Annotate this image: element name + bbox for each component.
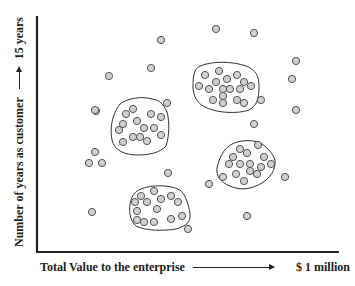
data-point	[167, 215, 174, 222]
data-point	[122, 110, 129, 117]
data-point	[98, 159, 105, 166]
data-point	[215, 67, 222, 74]
data-point	[205, 180, 212, 187]
data-point	[229, 153, 236, 160]
data-point	[105, 72, 112, 79]
data-point	[184, 225, 191, 232]
data-point	[147, 110, 154, 117]
axes	[36, 16, 339, 252]
y-arrow-icon	[19, 67, 20, 89]
data-point	[143, 198, 150, 205]
data-point	[232, 170, 239, 177]
data-point	[219, 85, 226, 92]
data-point	[157, 36, 164, 43]
data-point	[157, 113, 164, 120]
x-axis-max: $ 1 million	[296, 260, 350, 275]
data-point	[195, 82, 202, 89]
data-point	[250, 29, 257, 36]
data-point	[219, 173, 226, 180]
data-point	[219, 92, 226, 99]
data-point	[88, 208, 95, 215]
data-point	[223, 75, 230, 82]
data-point	[133, 207, 140, 214]
data-point	[267, 160, 274, 167]
y-axis-max: 15 years	[12, 17, 27, 59]
data-point	[250, 120, 257, 127]
data-point	[201, 71, 208, 78]
data-point	[157, 131, 164, 138]
data-point	[246, 167, 253, 174]
data-point	[167, 192, 174, 199]
data-point	[131, 198, 138, 205]
data-point	[247, 82, 254, 89]
data-point	[240, 177, 247, 184]
data-point	[163, 99, 170, 106]
data-point	[243, 212, 250, 219]
data-point	[136, 133, 143, 140]
data-point	[233, 96, 240, 103]
data-point	[147, 64, 154, 71]
data-point	[129, 133, 136, 140]
data-point	[140, 218, 147, 225]
data-point	[246, 160, 253, 167]
data-point	[178, 212, 185, 219]
data-point	[240, 78, 247, 85]
data-point	[140, 124, 147, 131]
data-point	[153, 205, 160, 212]
data-point	[115, 126, 122, 133]
data-point	[85, 159, 92, 166]
data-point	[143, 137, 150, 144]
data-point	[236, 85, 243, 92]
data-point	[137, 192, 144, 199]
data-point	[260, 153, 267, 160]
data-point	[292, 106, 299, 113]
data-point	[212, 25, 219, 32]
data-point	[233, 71, 240, 78]
data-point	[212, 78, 219, 85]
data-point	[209, 96, 216, 103]
data-point	[288, 75, 295, 82]
data-point	[129, 105, 136, 112]
scatter-diagram	[0, 0, 355, 286]
data-point	[257, 96, 264, 103]
y-axis-title: Number of years as customer	[12, 97, 27, 247]
data-point	[150, 218, 157, 225]
data-point	[91, 148, 98, 155]
data-point	[133, 216, 140, 223]
data-point	[174, 198, 181, 205]
data-point	[253, 170, 260, 177]
data-point	[164, 169, 171, 176]
data-point	[133, 117, 140, 124]
data-point	[292, 57, 299, 64]
data-point	[254, 141, 261, 148]
data-point	[225, 160, 232, 167]
x-axis-label: Total Value to the enterprise $ 1 millio…	[40, 258, 350, 276]
data-point	[157, 195, 164, 202]
data-point	[219, 99, 226, 106]
x-arrow-icon	[193, 267, 274, 268]
data-point	[243, 149, 250, 156]
x-axis-title: Total Value to the enterprise	[40, 260, 185, 275]
data-point	[257, 163, 264, 170]
data-point	[236, 145, 243, 152]
data-point	[226, 85, 233, 92]
data-point	[236, 160, 243, 167]
data-point	[281, 173, 288, 180]
data-point	[119, 138, 126, 145]
data-points	[85, 25, 299, 232]
data-point	[205, 85, 212, 92]
data-point	[240, 99, 247, 106]
data-point	[150, 124, 157, 131]
data-point	[91, 106, 98, 113]
data-point	[150, 187, 157, 194]
y-axis-label: Number of years as customer 15 years	[11, 17, 27, 247]
